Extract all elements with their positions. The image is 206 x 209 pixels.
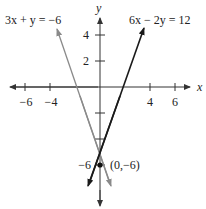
- point-label: (0,−6): [110, 158, 140, 172]
- x-tick-label: −4: [45, 95, 58, 109]
- y-axis-label: y: [95, 1, 102, 15]
- x-tick-label: 4: [147, 95, 153, 109]
- x-tick-label: 6: [172, 95, 178, 109]
- x-tick-label: −6: [20, 95, 33, 109]
- x-axis-label: x: [196, 80, 203, 94]
- plot-svg: −6 −4 4 6 x 4 2 −6 y 3x + y = −6: [0, 0, 206, 209]
- y-tick-label: 2: [83, 54, 89, 68]
- y-tick-label: 4: [83, 28, 89, 42]
- equation-label-2: 6x − 2y = 12: [129, 13, 191, 27]
- y-tick-label: −6: [78, 158, 91, 172]
- chart-figure: −6 −4 4 6 x 4 2 −6 y 3x + y = −6: [0, 0, 206, 209]
- point-marker: [97, 162, 102, 167]
- equation-label-1: 3x + y = −6: [5, 13, 61, 27]
- x-axis: −6 −4 4 6 x: [10, 80, 203, 109]
